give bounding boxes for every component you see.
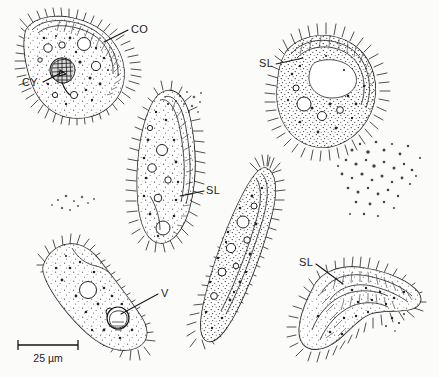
label-sl-center: SL [206, 184, 220, 196]
label-cy: CY [22, 76, 38, 88]
label-v: V [161, 287, 169, 299]
scale-bar-label: 25 µm [33, 352, 63, 364]
figure-plate: CO CY [0, 0, 439, 377]
label-co: CO [131, 23, 148, 35]
label-sl-lower-right: SL [299, 256, 313, 268]
label-sl-upper-right: SL [259, 57, 273, 69]
contractile-vacuole [107, 307, 129, 330]
illustration-canvas: CO CY [0, 0, 439, 377]
